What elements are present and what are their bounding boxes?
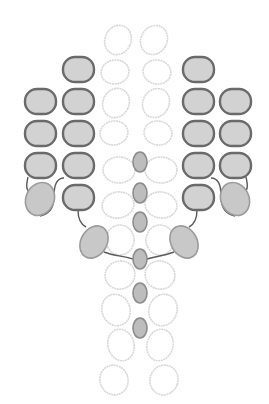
central-node xyxy=(133,283,147,303)
pill-block xyxy=(220,89,251,114)
pill-block xyxy=(183,89,214,114)
pill-block xyxy=(63,121,94,146)
pill-block xyxy=(63,153,94,178)
pill-block xyxy=(25,89,56,114)
pill-block xyxy=(63,89,94,114)
pill-block xyxy=(183,153,214,178)
pill-block xyxy=(25,121,56,146)
diagram-canvas xyxy=(0,0,269,404)
pill-block xyxy=(183,185,214,210)
pill-block xyxy=(183,57,214,82)
central-node xyxy=(133,318,147,338)
central-node xyxy=(133,152,147,172)
pill-block xyxy=(183,121,214,146)
pill-block xyxy=(220,121,251,146)
central-node xyxy=(133,183,147,203)
pill-block xyxy=(63,185,94,210)
central-node xyxy=(133,212,147,232)
central-node xyxy=(133,249,147,269)
molecular-structure-diagram xyxy=(0,0,269,404)
pill-block xyxy=(63,57,94,82)
pill-block xyxy=(25,153,56,178)
pill-block xyxy=(220,153,251,178)
